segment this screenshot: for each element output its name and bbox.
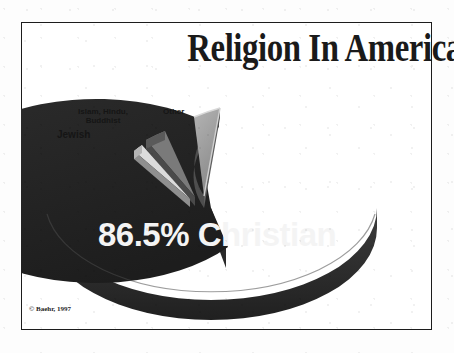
slice-label-christian: 86.5% Christian: [98, 216, 336, 254]
scanned-page: Religion In America Islam, Hindu, Buddhi…: [0, 0, 454, 353]
page-title: Religion In America: [187, 26, 425, 70]
slice-label-other: Other: [163, 107, 184, 116]
slice-label-islam-hindu-buddhist: Islam, Hindu, Buddhist: [71, 107, 135, 125]
slice-label-jewish: Jewish: [57, 130, 90, 139]
copyright-notice: © Baehr, 1997: [29, 305, 71, 313]
